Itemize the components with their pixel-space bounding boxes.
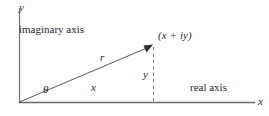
x-projection-label: x — [91, 82, 96, 93]
radius-vector-line — [20, 48, 149, 103]
imaginary-axis-label: imaginary axis — [19, 24, 84, 35]
y-axis-label: y — [19, 2, 24, 13]
radius-label: r — [100, 52, 104, 63]
x-axis-label: x — [258, 96, 263, 107]
complex-plane-diagram: y imaginary axis r θ x y (x + iy) real a… — [0, 0, 269, 116]
angle-theta-label: θ — [43, 84, 48, 95]
radius-vector-arrowhead — [144, 45, 154, 53]
real-axis-label: real axis — [190, 82, 227, 93]
y-projection-label: y — [143, 69, 148, 80]
complex-point-label: (x + iy) — [158, 30, 192, 41]
diagram-canvas — [0, 0, 269, 116]
